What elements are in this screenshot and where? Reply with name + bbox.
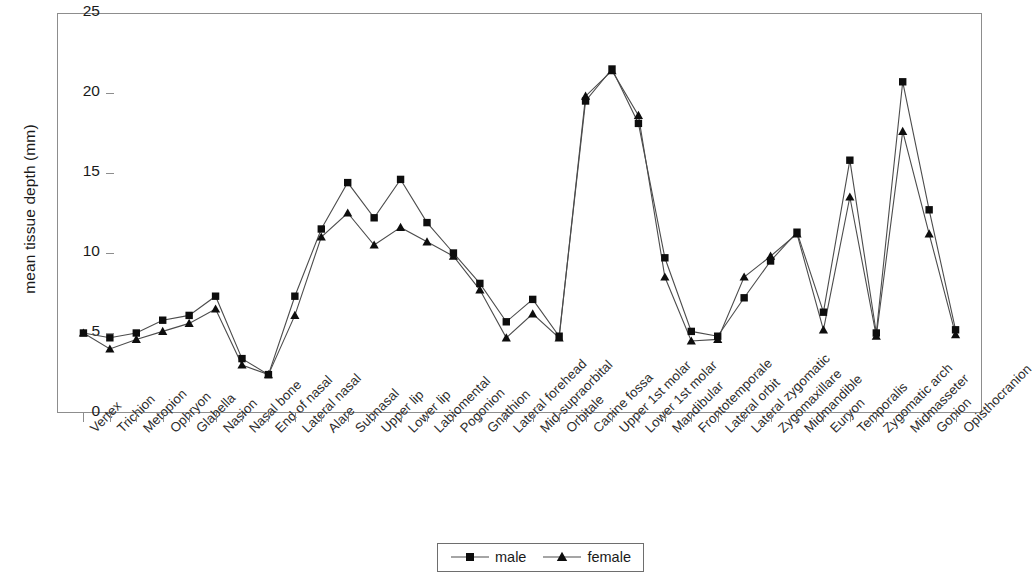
- x-tick-mark: [136, 413, 137, 422]
- data-point-male: [318, 225, 325, 232]
- legend-label: male: [495, 549, 526, 565]
- data-point-female: [105, 344, 114, 352]
- data-point-male: [529, 296, 536, 303]
- data-point-male: [397, 176, 404, 183]
- legend-entry-female: female: [542, 549, 631, 565]
- data-point-male: [688, 328, 695, 335]
- x-tick-mark: [638, 413, 639, 422]
- data-point-female: [845, 192, 854, 200]
- x-tick-mark: [691, 413, 692, 422]
- x-tick-mark: [559, 413, 560, 422]
- x-tick-mark: [453, 413, 454, 422]
- x-tick-mark: [374, 413, 375, 422]
- x-tick-mark: [850, 413, 851, 422]
- x-tick-mark: [427, 413, 428, 422]
- data-point-male: [344, 179, 351, 186]
- data-point-female: [819, 325, 828, 333]
- data-point-male: [925, 206, 932, 213]
- data-point-male: [423, 219, 430, 226]
- data-point-female: [660, 272, 669, 280]
- data-point-male: [740, 294, 747, 301]
- x-tick-mark: [612, 413, 613, 422]
- data-point-male: [291, 293, 298, 300]
- x-tick-mark: [533, 413, 534, 422]
- data-point-female: [396, 223, 405, 231]
- data-point-female: [422, 237, 431, 245]
- x-tick-mark: [189, 413, 190, 422]
- data-point-male: [212, 293, 219, 300]
- x-tick-mark: [744, 413, 745, 422]
- legend-label: female: [587, 549, 631, 565]
- x-tick-mark: [956, 413, 957, 422]
- x-tick-mark: [348, 413, 349, 422]
- x-tick-mark: [83, 413, 84, 422]
- data-point-male: [106, 334, 113, 341]
- data-point-male: [899, 78, 906, 85]
- data-point-male: [503, 318, 510, 325]
- data-point-female: [343, 208, 352, 216]
- data-point-female: [740, 272, 749, 280]
- x-tick-mark: [321, 413, 322, 422]
- x-tick-mark: [110, 413, 111, 422]
- x-tick-mark: [876, 413, 877, 422]
- data-point-female: [528, 309, 537, 317]
- x-tick-mark: [903, 413, 904, 422]
- data-point-female: [925, 229, 934, 237]
- x-tick-mark: [216, 413, 217, 422]
- x-tick-mark: [823, 413, 824, 422]
- y-axis-title: mean tissue depth (mm): [21, 29, 39, 389]
- chart-legend: malefemale: [437, 543, 644, 572]
- x-tick-mark: [480, 413, 481, 422]
- data-point-male: [820, 309, 827, 316]
- x-tick-mark: [506, 413, 507, 422]
- x-tick-mark: [665, 413, 666, 422]
- x-tick-mark: [242, 413, 243, 422]
- data-point-male: [846, 157, 853, 164]
- data-point-male: [159, 317, 166, 324]
- data-point-male: [185, 312, 192, 319]
- series-layer: [57, 13, 982, 413]
- data-point-female: [898, 127, 907, 135]
- x-tick-mark: [163, 413, 164, 422]
- triangle-marker-icon: [542, 550, 582, 564]
- x-tick-mark: [929, 413, 930, 422]
- square-marker-icon: [450, 550, 490, 564]
- x-tick-mark: [295, 413, 296, 422]
- x-tick-mark: [797, 413, 798, 422]
- data-point-female: [211, 304, 220, 312]
- data-point-male: [370, 214, 377, 221]
- plot-area: 0510152025 VertexTrichionMetopionOphryon…: [57, 13, 982, 413]
- x-tick-mark: [586, 413, 587, 422]
- x-tick-mark: [401, 413, 402, 422]
- data-point-female: [634, 111, 643, 119]
- x-tick-mark: [268, 413, 269, 422]
- x-tick-mark: [771, 413, 772, 422]
- data-point-male: [635, 120, 642, 127]
- x-tick-mark: [718, 413, 719, 422]
- data-point-female: [185, 319, 194, 327]
- data-point-female: [290, 311, 299, 319]
- legend-entry-male: male: [450, 549, 526, 565]
- data-point-male: [661, 254, 668, 261]
